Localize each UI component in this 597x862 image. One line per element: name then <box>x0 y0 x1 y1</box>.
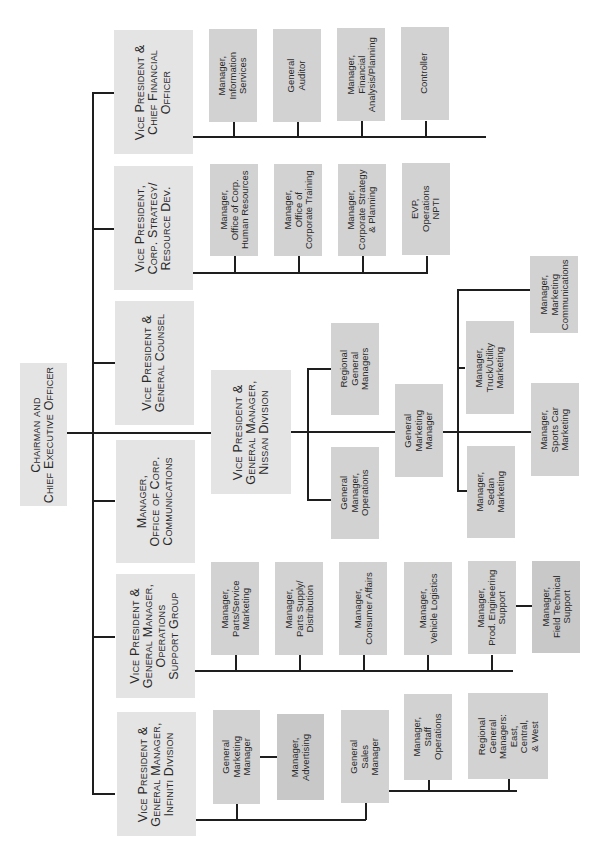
node-label: Manager, Advertising <box>290 734 311 781</box>
connector-marketing-spine <box>457 289 459 491</box>
node-nissan-gm-marketing[interactable]: General Marketing Manager <box>395 384 443 477</box>
node-label: Manager, Parts Supply/ Distribution <box>283 580 315 637</box>
node-mgr-parts-supply[interactable]: Manager, Parts Supply/ Distribution <box>275 562 323 655</box>
connector-strategy-r4 <box>426 256 428 273</box>
node-label: Regional General Managers <box>339 348 371 390</box>
node-vp-operations-support[interactable]: Vice President & General Manager, Operat… <box>116 574 195 698</box>
connector-nissan <box>92 432 211 434</box>
connector-cfo-r1 <box>233 121 235 137</box>
connector-cfo-r2 <box>297 121 299 137</box>
node-mgr-marketing-communications[interactable]: Manager, Marketing Communications <box>530 256 578 333</box>
node-mgr-staff-operations[interactable]: Manager, Staff Operations <box>404 694 452 780</box>
node-mgr-human-resources[interactable]: Manager, Office of Corp. Human Resources <box>210 164 258 256</box>
connector-root <box>67 432 93 434</box>
connector-infiniti-bus <box>193 819 366 821</box>
node-mgr-information-services[interactable]: Manager, Information Services <box>209 29 257 122</box>
connector-strategy-r1 <box>234 256 236 273</box>
connector-communications <box>92 500 115 502</box>
connector-marketing-comms <box>457 289 531 291</box>
node-infiniti-gm-marketing[interactable]: General Marketing Manager <box>213 710 260 804</box>
node-label: Manager, Marketing Communications <box>538 259 570 330</box>
node-vp-corp-strategy[interactable]: Vice President, Corp. Strategy/ Resource… <box>114 166 193 290</box>
connector-ops-r3 <box>363 655 365 671</box>
node-label: Manager, Consumer Affairs <box>353 572 374 645</box>
node-label: General Auditor <box>287 59 308 93</box>
node-label: Regional General Managers: East, Central… <box>476 714 539 759</box>
node-vp-cfo[interactable]: Vice President & Chief Financial Officer <box>114 30 193 154</box>
connector-nissan-marketing <box>291 431 401 433</box>
connector-inf-sales-bus <box>388 790 517 792</box>
node-mgr-field-technical[interactable]: Manager, Field Technical Support <box>532 561 580 653</box>
node-label: Manager, Information Services <box>217 52 249 100</box>
node-label: EVP, Operations NPTI <box>410 186 442 232</box>
node-mgr-advertising[interactable]: Manager, Advertising <box>277 714 324 800</box>
node-label: General Marketing Manager <box>221 736 253 778</box>
connector-ops-r5 <box>491 655 493 671</box>
node-label: Vice President & General Manager, Infini… <box>137 722 176 826</box>
connector-inf-r1 <box>236 803 238 820</box>
connector-ops-field <box>516 605 532 607</box>
connector-cfo <box>92 92 115 94</box>
node-label: Vice President & Chief Financial Officer <box>134 44 173 140</box>
connector-operations-bus <box>193 670 513 672</box>
connector-ops-r2 <box>299 655 301 671</box>
node-label: Manager, Financial Analysis/Planning <box>345 37 377 112</box>
connector-cfo-r4 <box>425 121 427 137</box>
node-mgr-sports-car-marketing[interactable]: Manager, Sports Car Marketing <box>531 383 579 476</box>
node-label: Manager, Office of Corp. Communications <box>136 456 175 546</box>
node-label: General Sales Manager <box>349 738 381 776</box>
node-general-sales-manager[interactable]: General Sales Manager <box>341 710 389 803</box>
node-nissan-regional-gm[interactable]: Regional General Managers <box>331 323 379 415</box>
node-label: Manager, Parts/Service Marketing <box>219 580 251 637</box>
node-mgr-prod-engineering[interactable]: Manager, Prod. Engineering Support <box>468 561 516 654</box>
node-nissan-gm-operations[interactable]: General Manager, Operations <box>331 447 379 539</box>
node-label: Manager, Sedan Marketing <box>475 471 507 513</box>
node-label: Manager, Prod. Engineering Support <box>476 569 508 645</box>
node-label: Manager, Field Technical Support <box>540 576 572 639</box>
node-label: Chairman and Chief Executive Officer <box>31 366 57 503</box>
node-regional-gm-east-central-west[interactable]: Regional General Managers: East, Central… <box>468 693 548 779</box>
node-label: Manager, Office of Corp. Human Resources <box>218 171 250 250</box>
node-vp-nissan-division[interactable]: Vice President & General Manager, Nissan… <box>211 370 291 494</box>
node-general-auditor[interactable]: General Auditor <box>273 29 321 122</box>
connector-inf-regional <box>508 779 510 791</box>
node-mgr-vehicle-logistics[interactable]: Manager, Vehicle Logistics <box>404 562 452 655</box>
node-chairman-ceo[interactable]: Chairman and Chief Executive Officer <box>20 363 67 506</box>
connector-strategy <box>92 228 115 230</box>
connector-inf-advertising <box>260 756 277 758</box>
node-label: Vice President & General Manager, Operat… <box>130 584 182 688</box>
node-vp-general-counsel[interactable]: Vice President & General Counsel <box>115 301 194 425</box>
connector-nissan-spine <box>307 368 309 500</box>
node-evp-operations-npti[interactable]: EVP, Operations NPTI <box>402 163 450 255</box>
node-label: Manager, Truck/Utility Marketing <box>474 343 506 392</box>
node-label: Manager, Corporate Strategy & Planning <box>346 170 378 250</box>
node-label: Manager, Sports Car Marketing <box>539 407 571 452</box>
connector-trunk <box>92 92 94 794</box>
node-mgr-consumer-affairs[interactable]: Manager, Consumer Affairs <box>339 562 387 655</box>
node-label: General Marketing Manager <box>403 410 435 452</box>
node-mgr-corporate-strategy[interactable]: Manager, Corporate Strategy & Planning <box>338 164 386 256</box>
node-mgr-corp-communications[interactable]: Manager, Office of Corp. Communications <box>116 440 195 563</box>
connector-ops-r4 <box>427 655 429 671</box>
node-mgr-financial-analysis[interactable]: Manager, Financial Analysis/Planning <box>337 28 385 121</box>
node-label: Manager, Office of Corporate Training <box>282 171 314 250</box>
connector-marketing-sedan <box>457 490 467 492</box>
connector-cfo-bus-line <box>193 136 486 138</box>
connector-operations <box>92 636 115 638</box>
connector-inf-r3 <box>365 803 367 820</box>
node-mgr-truck-utility-marketing[interactable]: Manager, Truck/Utility Marketing <box>466 321 514 414</box>
node-label: Manager, Staff Operations <box>412 714 444 760</box>
connector-ops-r1 <box>235 655 237 671</box>
node-mgr-parts-service-marketing[interactable]: Manager, Parts/Service Marketing <box>211 562 259 655</box>
node-controller[interactable]: Controller <box>401 27 449 120</box>
connector-counsel <box>92 362 115 364</box>
connector-cfo-r3 <box>361 121 363 137</box>
node-vp-infiniti-division[interactable]: Vice President & General Manager, Infini… <box>117 712 196 836</box>
node-mgr-corporate-training[interactable]: Manager, Office of Corporate Training <box>274 164 322 256</box>
node-mgr-sedan-marketing[interactable]: Manager, Sedan Marketing <box>467 446 515 538</box>
node-label: Manager, Vehicle Logistics <box>418 573 439 643</box>
node-label: Vice President & General Counsel <box>142 314 168 412</box>
connector-strategy-r2 <box>298 256 300 273</box>
node-label: Vice President & General Manager, Nissan… <box>232 380 271 484</box>
node-label: Controller <box>420 53 431 94</box>
